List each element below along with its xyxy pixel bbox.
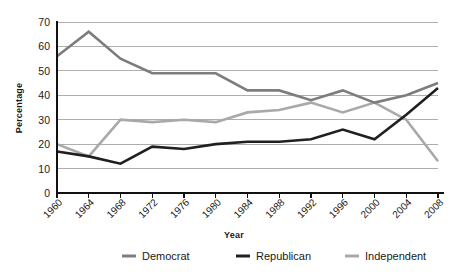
y-axis-tick-label: 40 bbox=[38, 89, 50, 101]
y-axis-tick-label: 20 bbox=[38, 138, 50, 150]
legend-label-republican: Republican bbox=[256, 250, 311, 262]
y-axis-tick-label: 0 bbox=[44, 187, 50, 199]
y-axis-tick-label: 10 bbox=[38, 163, 50, 175]
y-axis-tick-label: 30 bbox=[38, 114, 50, 126]
x-axis-title: Year bbox=[224, 230, 244, 240]
line-chart: 010203040506070 196019641968197219761980… bbox=[0, 0, 456, 277]
y-axis-tick-label: 70 bbox=[38, 16, 50, 28]
y-axis-tick-label: 50 bbox=[38, 65, 50, 77]
chart-container: 010203040506070 196019641968197219761980… bbox=[0, 0, 456, 277]
legend-label-democrat: Democrat bbox=[142, 250, 190, 262]
y-axis-tick-label: 60 bbox=[38, 40, 50, 52]
y-axis-title: Percentage bbox=[14, 83, 24, 134]
chart-legend: DemocratRepublicanIndependent bbox=[122, 250, 426, 262]
legend-label-independent: Independent bbox=[365, 250, 426, 262]
